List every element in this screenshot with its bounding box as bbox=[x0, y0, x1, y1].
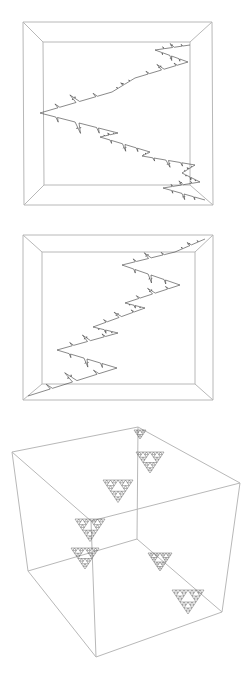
sierpinski-cell bbox=[114, 497, 118, 500]
sierpinski-cell bbox=[150, 468, 154, 471]
sierpinski-cell bbox=[184, 608, 188, 611]
sierpinski-cell bbox=[140, 457, 144, 460]
sierpinski-cell bbox=[120, 483, 124, 486]
sierpinski-cell bbox=[145, 465, 149, 468]
sierpinski-cell bbox=[118, 491, 122, 494]
sierpinski-cell bbox=[85, 559, 89, 562]
sierpinski-cell bbox=[157, 567, 160, 569]
sierpinski-cell bbox=[82, 548, 86, 551]
sierpinski-cell bbox=[94, 530, 98, 533]
sierpinski-cell bbox=[141, 460, 145, 463]
sierpinski-cell bbox=[168, 555, 171, 557]
sierpinski-cell bbox=[188, 590, 192, 593]
sierpinski-cell bbox=[154, 452, 158, 455]
sierpinski-cell bbox=[186, 611, 190, 614]
sierpinski-cell bbox=[109, 488, 113, 491]
sierpinski-cell bbox=[83, 530, 87, 533]
cube-edge bbox=[12, 452, 28, 571]
sierpinski-cell bbox=[157, 452, 161, 455]
sierpinski-cell bbox=[75, 553, 79, 556]
sierpinski-cell bbox=[114, 480, 118, 483]
sierpinski-cell bbox=[154, 558, 157, 560]
sierpinski-cell bbox=[127, 483, 131, 486]
sierpinski-cell bbox=[150, 452, 154, 455]
sierpinski-cell bbox=[98, 525, 102, 528]
sierpinski-cell bbox=[111, 480, 115, 483]
sierpinski-cell bbox=[134, 430, 137, 432]
sierpinski-cell bbox=[200, 590, 204, 593]
sierpinski-cell bbox=[180, 596, 184, 599]
cube-edge bbox=[138, 427, 240, 483]
sierpinski-cell bbox=[122, 491, 126, 494]
sierpinski-cell bbox=[162, 564, 165, 566]
sierpinski-cell bbox=[99, 522, 103, 525]
sierpinski-cell bbox=[140, 452, 144, 455]
sierpinski-cell bbox=[159, 569, 162, 571]
cube-edge bbox=[12, 452, 91, 521]
sierpinski-cell bbox=[182, 605, 186, 608]
sierpinski-cell bbox=[89, 559, 93, 562]
sierpinski-cell bbox=[78, 559, 82, 562]
sierpinski-cell bbox=[151, 558, 154, 560]
sierpinski-cell bbox=[142, 432, 145, 434]
cube-edge bbox=[96, 612, 222, 657]
sierpinski-cell bbox=[182, 593, 186, 596]
sierpinski-cell bbox=[180, 602, 184, 605]
sierpinski-cell bbox=[86, 536, 90, 539]
sierpinski-cell bbox=[118, 480, 122, 483]
sierpinski-cell bbox=[122, 480, 126, 483]
sierpinski-cell bbox=[166, 558, 169, 560]
sierpinski-cell bbox=[112, 483, 116, 486]
cube-edge bbox=[91, 483, 240, 521]
sierpinski-cell bbox=[111, 486, 115, 489]
sierpinski-cell bbox=[140, 435, 143, 437]
cube-edge bbox=[137, 427, 138, 539]
sierpinski-cell bbox=[154, 457, 158, 460]
sierpinski-cell bbox=[118, 497, 122, 500]
sierpinski-cell bbox=[148, 470, 152, 473]
sierpinski-cell bbox=[138, 455, 142, 458]
sierpinski-cell bbox=[190, 593, 194, 596]
sierpinski-cell bbox=[124, 488, 128, 491]
sierpinski-cell bbox=[139, 437, 142, 439]
sierpinski-cell bbox=[162, 555, 165, 557]
sierpinski-cell bbox=[184, 602, 188, 605]
cube-edge bbox=[28, 539, 137, 571]
sierpinski-cell bbox=[157, 562, 160, 564]
cube-edge bbox=[222, 483, 240, 612]
sierpinski-cell bbox=[147, 452, 151, 455]
sierpinski-cell bbox=[180, 590, 184, 593]
sierpinski-cell bbox=[122, 486, 126, 489]
sierpinski-cell bbox=[111, 491, 115, 494]
sierpinski-cell bbox=[75, 519, 79, 522]
sierpinski-cell bbox=[85, 548, 89, 551]
sierpinski-cell bbox=[84, 533, 88, 536]
sierpinski-cell bbox=[87, 561, 91, 564]
sierpinski-cell bbox=[94, 525, 98, 528]
cube-edge bbox=[12, 427, 138, 452]
sierpinski-cell bbox=[92, 522, 96, 525]
sierpinski-cell bbox=[73, 551, 77, 554]
sierpinski-cell bbox=[80, 561, 84, 564]
sierpinski-cell bbox=[89, 553, 93, 556]
sierpinski-cell bbox=[83, 566, 87, 569]
sierpinski-cell bbox=[160, 567, 163, 569]
sierpinski-cell bbox=[188, 608, 192, 611]
sierpinski-cell bbox=[150, 555, 153, 557]
sierpinski-cell bbox=[89, 548, 93, 551]
sierpinski-cell bbox=[82, 559, 86, 562]
sierpinski-cell bbox=[103, 480, 107, 483]
sierpinski-cell bbox=[160, 553, 163, 555]
sierpinski-cell bbox=[129, 480, 133, 483]
sierpinski-cell bbox=[157, 457, 161, 460]
sierpinski-cell bbox=[163, 558, 166, 560]
sierpinski-cell bbox=[77, 522, 81, 525]
sierpinski-cell bbox=[92, 533, 96, 536]
sierpinski-cell bbox=[79, 525, 83, 528]
sierpinski-cell bbox=[152, 455, 156, 458]
sierpinski-cell bbox=[196, 596, 200, 599]
sierpinski-cell bbox=[112, 494, 116, 497]
sierpinski-cell bbox=[161, 452, 165, 455]
sierpinski-cell bbox=[190, 605, 194, 608]
sierpinski-cell bbox=[184, 590, 188, 593]
